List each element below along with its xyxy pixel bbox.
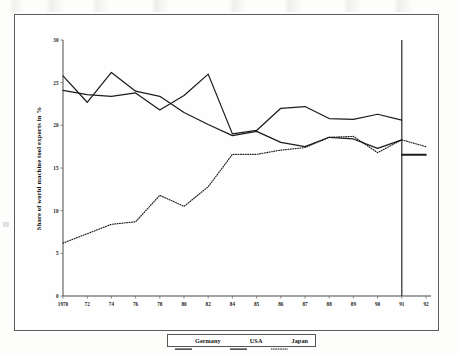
scan-artifact-top [0,0,458,12]
legend-label: Japan [291,337,308,344]
legend-swatch-japan-icon [271,338,288,344]
x-tick-label: 86 [278,301,284,307]
x-tick-label: 76 [133,301,139,307]
y-tick-label: 30 [53,37,59,43]
x-tick-label: 78 [157,301,163,307]
y-tick-label: 15 [53,165,59,171]
figure-frame: Share of world machine tool exports in %… [14,14,439,331]
x-tick-label: 74 [109,301,115,307]
y-tick-label: 25 [53,80,59,86]
x-tick-label: 84 [230,301,236,307]
legend-item-usa: USA [230,337,263,344]
x-tick-label: 92 [423,301,429,307]
x-tick-label: 91 [399,301,405,307]
y-tick-group: 051015202530 [53,37,63,299]
chart-legend: GermanyUSAJapan [167,334,316,347]
x-tick-label: 87 [302,301,308,307]
y-tick-label: 0 [56,293,59,299]
legend-swatch-usa-icon [230,338,247,344]
x-tick-label: 1970 [58,301,69,307]
legend-item-germany: Germany [175,337,221,344]
y-tick-label: 10 [53,208,59,214]
y-tick-label: 5 [56,250,59,256]
x-tick-label: 82 [206,301,212,307]
x-tick-label: 72 [85,301,91,307]
x-tick-label: 88 [327,301,333,307]
data-series-group [63,72,426,243]
x-tick-group: 1970727476788082848586878889909192 [58,296,429,307]
legend-swatch-germany-icon [175,338,192,344]
legend-item-japan: Japan [271,337,308,344]
y-tick-label: 20 [53,122,59,128]
series-line-germany [63,74,402,134]
series-line-japan [63,136,402,243]
legend-label: USA [250,337,263,344]
scan-artifact-left-margin [3,222,9,227]
legend-label: Germany [195,337,221,344]
x-tick-label: 85 [254,301,260,307]
x-tick-label: 90 [375,301,381,307]
x-tick-label: 80 [181,301,187,307]
series-line-japan-post-break [402,140,426,147]
x-tick-label: 89 [351,301,357,307]
line-chart-plot: 051015202530 197072747678808284858687888… [15,15,440,332]
